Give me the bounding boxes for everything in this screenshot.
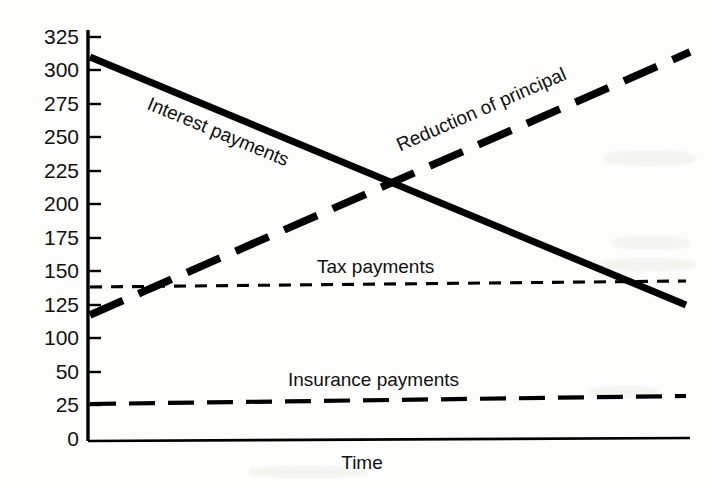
x-axis-title: Time	[341, 452, 383, 473]
y-tick-label: 325	[44, 25, 79, 48]
chart-figure: 325 300 275 250 225 200 175 150 125 100 …	[0, 0, 714, 488]
y-tick-label: 275	[44, 92, 79, 115]
x-axis-line	[88, 438, 690, 441]
y-tick-label: 125	[44, 293, 79, 316]
series-label-insurance-payments: Insurance payments	[288, 369, 459, 390]
y-tick-label: 100	[44, 326, 79, 349]
y-tick-label: 300	[44, 58, 79, 81]
y-tick-label: 200	[44, 192, 79, 215]
series-label-tax-payments: Tax payments	[317, 256, 434, 277]
line-chart-plot: 325 300 275 250 225 200 175 150 125 100 …	[0, 0, 714, 488]
y-tick-marks	[88, 37, 101, 405]
y-tick-label: 0	[67, 427, 79, 450]
series-line-insurance-payments	[90, 396, 686, 404]
y-tick-label: 225	[44, 159, 79, 182]
y-tick-label: 250	[44, 125, 79, 148]
y-tick-label: 175	[44, 226, 79, 249]
series-line-tax-payments	[90, 281, 686, 287]
y-tick-label: 150	[44, 259, 79, 282]
y-tick-label: 25	[56, 393, 79, 416]
y-tick-label: 50	[56, 360, 79, 383]
y-axis-tick-labels: 325 300 275 250 225 200 175 150 125 100 …	[44, 25, 79, 450]
